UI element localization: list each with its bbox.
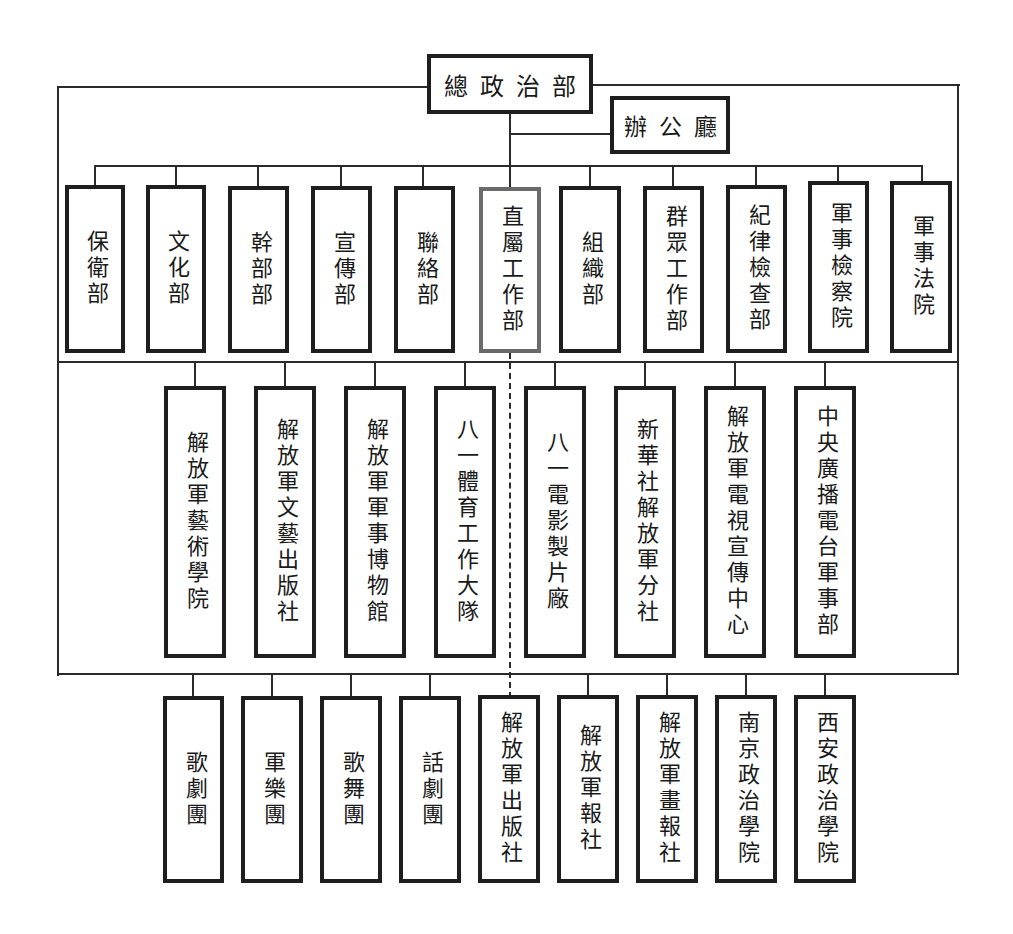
level3-stub	[192, 674, 194, 698]
level3-node-box[interactable]: 軍樂團	[241, 696, 303, 883]
level2-stub	[824, 362, 826, 388]
level3-node-box[interactable]: 解放軍報社	[557, 695, 619, 883]
level1-node-box[interactable]: 組織部	[559, 186, 621, 353]
level3-stub	[587, 673, 589, 697]
level2-node-box[interactable]: 解放軍軍事博物館	[344, 386, 406, 658]
level1-node-box[interactable]: 聯絡部	[394, 186, 455, 353]
level1-node-label: 軍事法院	[910, 215, 932, 319]
level1-node-label: 文化部	[165, 230, 187, 308]
level1-node-label: 群眾工作部	[663, 205, 685, 335]
level3-node-label: 解放軍報社	[577, 724, 599, 854]
office-node-box[interactable]: 辦公廳	[610, 96, 730, 154]
level2-node-box[interactable]: 解放軍文藝出版社	[254, 386, 316, 658]
level1-node-label: 宣傳部	[331, 231, 353, 309]
level3-node-label: 軍樂團	[261, 751, 283, 829]
level3-node-label: 解放軍出版社	[498, 711, 520, 867]
level2-stub	[194, 362, 196, 388]
level3-node-box[interactable]: 西安政治學院	[794, 695, 856, 883]
frame-top-right	[592, 84, 960, 86]
level1-bus	[94, 165, 923, 167]
office-connector	[509, 133, 612, 135]
level1-node-box[interactable]: 宣傳部	[311, 186, 372, 353]
level1-stub	[257, 165, 259, 187]
level3-node-box[interactable]: 南京政治學院	[715, 695, 777, 883]
level2-node-box[interactable]: 解放軍電視宣傳中心	[704, 386, 766, 658]
level1-node-label: 聯絡部	[414, 231, 436, 309]
level2-node-box[interactable]: 中央廣播電台軍事部	[794, 386, 856, 658]
level1-stub	[422, 165, 424, 187]
level1-node-box[interactable]: 保衛部	[65, 185, 125, 353]
frame-left	[57, 86, 59, 676]
level2-node-label: 解放軍軍事博物館	[364, 418, 386, 626]
level3-node-box[interactable]: 解放軍畫報社	[636, 695, 698, 883]
level1-stub	[340, 165, 342, 187]
level3-stub	[824, 673, 826, 697]
level1-node-box[interactable]: 幹部部	[228, 186, 289, 353]
level2-node-label: 新華社解放軍分社	[634, 418, 656, 626]
level3-node-box[interactable]: 解放軍出版社	[478, 695, 540, 883]
level1-node-box[interactable]: 群眾工作部	[643, 186, 704, 353]
root-trunk	[509, 113, 511, 187]
level1-stub	[175, 165, 177, 187]
office-node-label: 辦公廳	[612, 108, 729, 142]
level1-stub	[589, 165, 591, 187]
level2-node-label: 八一電影製片廠	[544, 431, 566, 613]
level1-node-label: 保衛部	[84, 230, 106, 308]
level2-node-box[interactable]: 八一體育工作大隊	[434, 386, 496, 658]
level1-stub	[672, 165, 674, 187]
level3-stub	[271, 674, 273, 698]
level2-stub	[734, 362, 736, 388]
level3-stub	[745, 673, 747, 697]
level1-node-box[interactable]: 軍事法院	[890, 181, 952, 353]
level1-stub	[755, 165, 757, 187]
level3-node-label: 西安政治學院	[814, 711, 836, 867]
level1-node-box[interactable]: 紀律檢查部	[726, 185, 787, 353]
level2-stub	[644, 362, 646, 388]
level1-node-box-highlight[interactable]: 直屬工作部	[479, 187, 541, 353]
level2-node-box[interactable]: 解放軍藝術學院	[164, 386, 226, 658]
level3-node-label: 歌舞團	[340, 751, 362, 829]
root-node-label: 總政治部	[432, 67, 588, 102]
level1-stub	[94, 165, 96, 187]
dashed-connector	[509, 353, 511, 698]
level1-node-label: 軍事檢察院	[828, 202, 850, 332]
level1-node-label: 幹部部	[248, 231, 270, 309]
level3-node-box[interactable]: 歌舞團	[320, 696, 382, 883]
level1-node-label: 組織部	[579, 231, 601, 309]
level3-node-label: 解放軍畫報社	[656, 711, 678, 867]
level3-node-label: 南京政治學院	[735, 711, 757, 867]
level3-node-label: 歌劇團	[183, 751, 205, 829]
level1-node-box[interactable]: 文化部	[146, 185, 206, 353]
level3-stub	[429, 674, 431, 698]
level2-node-label: 中央廣播電台軍事部	[814, 405, 836, 639]
level2-node-label: 解放軍電視宣傳中心	[724, 405, 746, 639]
level2-node-box[interactable]: 新華社解放軍分社	[614, 386, 676, 658]
frame-top-left	[57, 86, 428, 88]
level2-stub	[374, 362, 376, 388]
level2-node-label: 解放軍藝術學院	[184, 431, 206, 613]
level2-node-box[interactable]: 八一電影製片廠	[524, 386, 586, 658]
level1-node-label: 直屬工作部	[499, 205, 521, 335]
level1-node-box[interactable]: 軍事檢察院	[808, 181, 869, 353]
level2-stub	[464, 362, 466, 388]
level3-node-box[interactable]: 歌劇團	[163, 696, 224, 883]
level3-node-box[interactable]: 話劇團	[399, 696, 461, 883]
level2-stub	[554, 362, 556, 388]
level2-stub	[284, 362, 286, 388]
level3-stub	[350, 674, 352, 698]
level2-node-label: 解放軍文藝出版社	[274, 418, 296, 626]
level2-node-label: 八一體育工作大隊	[454, 418, 476, 626]
level1-node-label: 紀律檢查部	[746, 204, 768, 334]
frame-right	[957, 84, 959, 674]
level3-node-label: 話劇團	[419, 751, 441, 829]
root-node-box[interactable]: 總政治部	[427, 54, 593, 114]
level3-stub	[666, 673, 668, 697]
